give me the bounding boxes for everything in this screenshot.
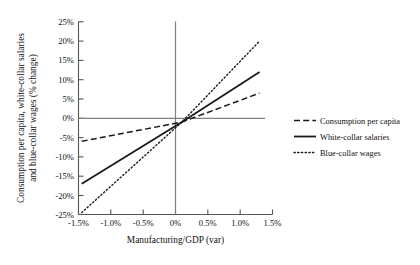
y-tick-label: 25% bbox=[58, 17, 74, 27]
y-axis-tick-labels: 25% 20% 15% 10% 5% 0% -5% -10% -15% -20%… bbox=[55, 17, 74, 220]
x-tick-label: 0% bbox=[170, 218, 181, 228]
series-line-blue-collar-wages bbox=[82, 41, 260, 213]
y-axis-title-line1: Consumption per capita, white-collar sal… bbox=[16, 33, 26, 203]
x-tick-label: -1.0% bbox=[100, 218, 121, 228]
chart-figure: 25% 20% 15% 10% 5% 0% -5% -10% -15% -20%… bbox=[0, 0, 420, 265]
y-tick-label: 20% bbox=[58, 36, 74, 46]
line-chart-svg: 25% 20% 15% 10% 5% 0% -5% -10% -15% -20%… bbox=[0, 0, 420, 265]
x-tick-label: 0.5% bbox=[199, 218, 217, 228]
x-tick-label: -0.5% bbox=[133, 218, 154, 228]
y-tick-label: -10% bbox=[55, 152, 74, 162]
y-tick-label: -5% bbox=[60, 133, 74, 143]
x-axis-tick-labels: -1.5% -1.0% -0.5% 0% 0.5% 1.0% 1.5% bbox=[68, 218, 281, 228]
legend-label-consumption-per-capita: Consumption per capita bbox=[320, 117, 400, 126]
y-tick-label: 5% bbox=[63, 94, 74, 104]
x-tick-label: 1.5% bbox=[264, 218, 282, 228]
y-tick-label: -15% bbox=[55, 171, 74, 181]
series-line-white-collar-salaries bbox=[82, 72, 260, 184]
y-tick-label: 15% bbox=[58, 55, 74, 65]
x-tick-label: 1.0% bbox=[231, 218, 249, 228]
legend-label-blue-collar-wages: Blue-collar wages bbox=[320, 149, 381, 158]
x-tick-label: -1.5% bbox=[68, 218, 89, 228]
x-axis-title: Manufacturing/GDP (var) bbox=[127, 235, 224, 246]
y-axis-title-line2: and blue-collar wages (% change) bbox=[28, 54, 39, 182]
legend-label-white-collar-salaries: White-collar salaries bbox=[320, 133, 390, 142]
y-tick-label: 0% bbox=[63, 113, 74, 123]
y-tick-label: 10% bbox=[58, 75, 74, 85]
chart-legend: Consumption per capita White-collar sala… bbox=[294, 117, 400, 158]
y-tick-label: -20% bbox=[55, 191, 74, 201]
series-line-consumption-per-capita bbox=[82, 93, 260, 141]
